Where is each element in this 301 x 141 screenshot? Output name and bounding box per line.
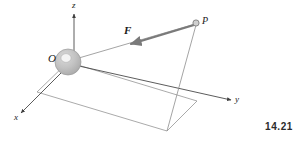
axis-label-z: z xyxy=(72,1,76,10)
origin-sphere-hole xyxy=(61,54,71,63)
point-marker-icon xyxy=(193,20,199,26)
origin-sphere-icon xyxy=(55,49,81,75)
force-vector-arrow xyxy=(131,25,194,44)
vertical-drop-line xyxy=(167,25,196,131)
axis-y-line xyxy=(70,64,231,100)
point-p-marker xyxy=(193,20,199,26)
physics-figure-14-21: z y x O P F 14.21 xyxy=(0,0,301,141)
axis-label-x: x xyxy=(14,113,18,122)
axis-x xyxy=(21,68,66,113)
segment-P-projection xyxy=(167,25,196,131)
figure-diagram-canvas xyxy=(0,0,301,141)
vector-label-f: F xyxy=(124,25,131,36)
force-vector-F xyxy=(131,25,194,44)
figure-number: 14.21 xyxy=(265,121,293,132)
axis-x-line xyxy=(21,68,66,113)
axis-label-y: y xyxy=(235,95,239,104)
point-label-p: P xyxy=(202,16,208,26)
axis-y xyxy=(70,64,231,100)
point-label-origin: O xyxy=(48,53,56,64)
